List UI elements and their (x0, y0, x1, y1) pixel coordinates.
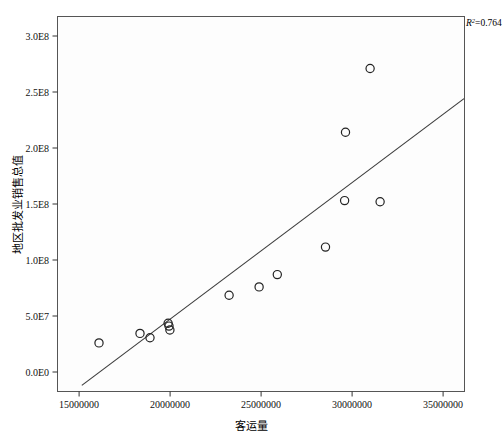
x-axis-title: 客运量 (235, 419, 268, 433)
y-tick-label-5: 2.5E8 (25, 87, 49, 98)
r-squared-annotation: R2=0.764 (465, 17, 502, 29)
x-axis-ticks (79, 392, 443, 397)
y-tick-label-4: 2.0E8 (25, 143, 49, 154)
y-tick-label-2: 1.0E8 (25, 255, 49, 266)
y-axis-title: 地区批发业销售总值 (11, 155, 25, 254)
x-tick-label-0: 15000000 (59, 399, 99, 410)
x-tick-label-3: 30000000 (332, 399, 372, 410)
x-axis-tick-labels: 15000000 20000000 25000000 30000000 3500… (59, 399, 463, 410)
y-tick-label-6: 3.0E8 (25, 31, 49, 42)
x-tick-label-1: 20000000 (150, 399, 190, 410)
y-axis-ticks (53, 36, 58, 372)
y-tick-label-3: 1.5E8 (25, 199, 49, 210)
scatter-chart: 15000000 20000000 25000000 30000000 3500… (0, 0, 503, 439)
y-axis-tick-labels: 0.0E0 5.0E7 1.0E8 1.5E8 2.0E8 2.5E8 3.0E… (25, 31, 49, 378)
r-squared-value: 0.764 (480, 18, 502, 28)
x-tick-label-2: 25000000 (241, 399, 281, 410)
plot-frame (58, 17, 465, 392)
x-tick-label-4: 35000000 (423, 399, 463, 410)
y-tick-label-1: 5.0E7 (25, 311, 49, 322)
y-tick-label-0: 0.0E0 (25, 367, 49, 378)
